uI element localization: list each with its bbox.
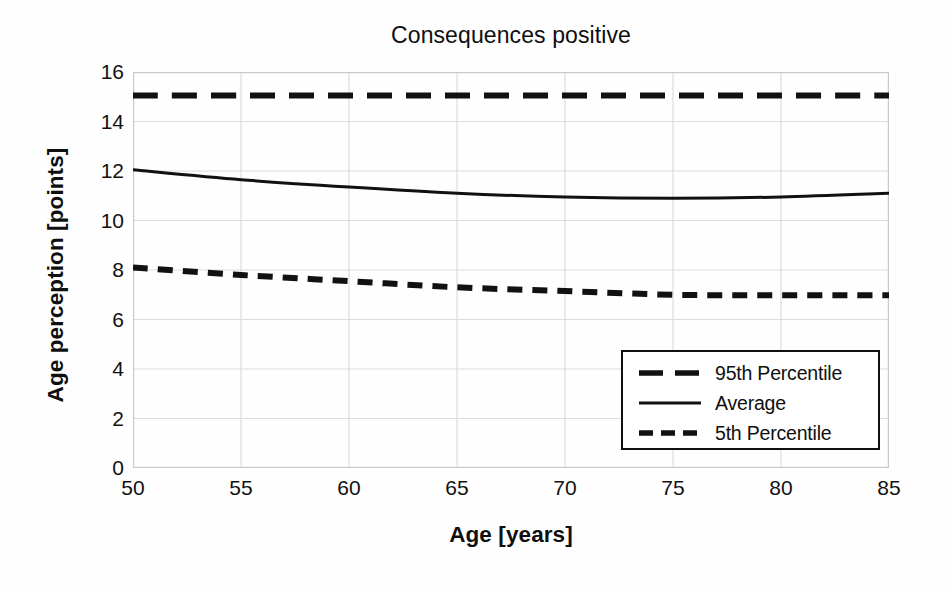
y-tick-label: 4 bbox=[76, 358, 124, 379]
legend-item-95th: 95th Percentile bbox=[623, 358, 878, 388]
legend-line-sample-dashed-long bbox=[637, 366, 703, 380]
y-tick-label: 14 bbox=[76, 111, 124, 132]
data-series-group bbox=[133, 96, 889, 296]
legend-line-sample-dashed-short bbox=[637, 426, 703, 440]
y-tick-label: 6 bbox=[76, 309, 124, 330]
x-tick-label: 50 bbox=[98, 477, 168, 498]
y-axis-title: Age perception [points] bbox=[43, 80, 69, 470]
legend-label-95th: 95th Percentile bbox=[715, 362, 842, 385]
legend-item-average: Average bbox=[623, 388, 878, 418]
y-tick-label: 0 bbox=[76, 457, 124, 478]
y-tick-label: 10 bbox=[76, 210, 124, 231]
y-tick-label: 8 bbox=[76, 259, 124, 280]
series-line-average bbox=[133, 170, 889, 198]
chart-legend: 95th Percentile Average 5th Percentile bbox=[621, 350, 880, 450]
x-tick-label: 75 bbox=[638, 477, 708, 498]
x-tick-label: 55 bbox=[206, 477, 276, 498]
legend-label-5th: 5th Percentile bbox=[715, 422, 831, 445]
y-tick-label: 2 bbox=[76, 408, 124, 429]
x-tick-label: 70 bbox=[530, 477, 600, 498]
x-axis-tick-labels: 5055606570758085 bbox=[133, 477, 889, 507]
chart-figure: Consequences positive Age perception [po… bbox=[0, 0, 950, 592]
x-tick-label: 60 bbox=[314, 477, 384, 498]
y-tick-label: 12 bbox=[76, 160, 124, 181]
series-line-5th-percentile bbox=[133, 268, 889, 296]
legend-label-average: Average bbox=[715, 392, 786, 415]
legend-line-sample-solid bbox=[637, 396, 703, 410]
y-axis-tick-labels: 0246810121416 bbox=[72, 72, 124, 468]
x-tick-label: 80 bbox=[746, 477, 816, 498]
x-axis-title: Age [years] bbox=[133, 522, 889, 548]
legend-item-5th: 5th Percentile bbox=[623, 418, 878, 448]
chart-title: Consequences positive bbox=[133, 22, 889, 49]
x-tick-label: 65 bbox=[422, 477, 492, 498]
y-tick-label: 16 bbox=[76, 61, 124, 82]
x-tick-label: 85 bbox=[854, 477, 924, 498]
